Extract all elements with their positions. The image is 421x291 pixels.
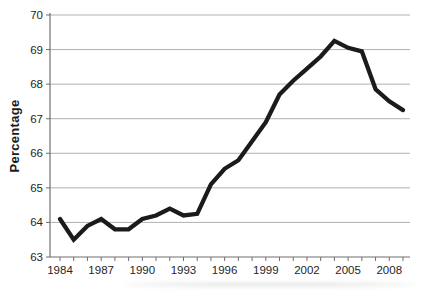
- x-tick-label: 2005: [335, 264, 361, 276]
- x-tick-label: 1984: [47, 264, 73, 276]
- y-tick-label: 64: [30, 216, 43, 228]
- x-tick-label: 1993: [171, 264, 197, 276]
- y-tick-label: 70: [30, 9, 43, 21]
- line-chart: Percentage 63646566676869701984198719901…: [0, 0, 421, 291]
- x-tick-label: 1999: [253, 264, 279, 276]
- y-tick-label: 63: [30, 251, 43, 263]
- y-tick-label: 68: [30, 78, 43, 90]
- x-tick-label: 1987: [88, 264, 114, 276]
- plot-area: 6364656667686970198419871990199319961999…: [0, 0, 421, 291]
- y-tick-label: 69: [30, 44, 43, 56]
- x-tick-label: 1996: [212, 264, 238, 276]
- scan-artifact: [125, 283, 415, 286]
- y-tick-label: 66: [30, 147, 43, 159]
- x-tick-label: 2008: [376, 264, 402, 276]
- y-tick-label: 67: [30, 113, 43, 125]
- y-tick-label: 65: [30, 182, 43, 194]
- data-series-line: [60, 41, 403, 240]
- x-tick-label: 1990: [130, 264, 156, 276]
- x-tick-label: 2002: [294, 264, 320, 276]
